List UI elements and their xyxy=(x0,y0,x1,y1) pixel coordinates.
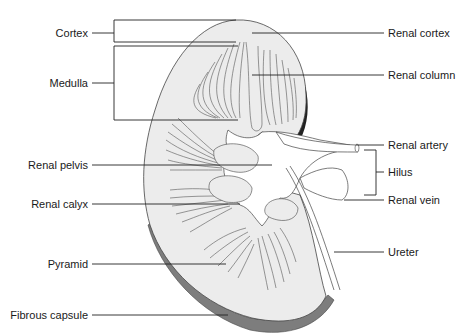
label-renal-vein: Renal vein xyxy=(388,194,440,207)
label-fibrous-capsule: Fibrous capsule xyxy=(10,309,88,322)
label-ureter: Ureter xyxy=(388,246,419,259)
label-renal-cortex: Renal cortex xyxy=(388,27,450,40)
renal-vein-shape xyxy=(300,168,348,200)
label-renal-pelvis: Renal pelvis xyxy=(28,159,88,172)
label-renal-calyx: Renal calyx xyxy=(31,198,88,211)
label-pyramid: Pyramid xyxy=(48,258,88,271)
kidney-diagram: Cortex Medulla Renal pelvis Renal calyx … xyxy=(0,0,473,335)
calyx-lower xyxy=(265,199,298,221)
label-renal-column: Renal column xyxy=(388,69,455,82)
label-cortex: Cortex xyxy=(56,27,88,40)
label-hilus: Hilus xyxy=(388,166,412,179)
label-renal-artery: Renal artery xyxy=(388,139,448,152)
hilus-bracket xyxy=(364,150,384,195)
label-medulla: Medulla xyxy=(49,77,88,90)
